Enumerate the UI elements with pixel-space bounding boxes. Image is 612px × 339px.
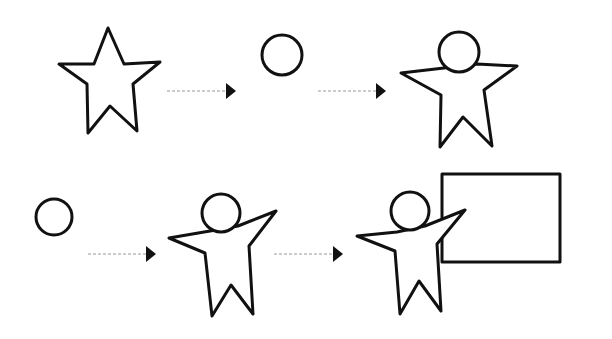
circle-shape-1 [262,35,302,75]
arrow-connector-2 [318,83,386,99]
circle-shape-2 [36,199,72,235]
arrow-head-icon [333,246,343,262]
arrow-head-icon [376,83,386,99]
star-shape [59,28,160,133]
arrow-connector-1 [167,83,236,99]
person-presenting-board-figure [357,174,560,314]
arrow-head-icon [226,83,236,99]
arrow-connector-3 [88,246,156,262]
arrow-connector-4 [274,246,343,262]
star-with-head-figure [401,32,517,147]
diagram-canvas [0,0,612,339]
person-arms-raised-figure [169,194,276,316]
arrow-head-icon [146,246,156,262]
